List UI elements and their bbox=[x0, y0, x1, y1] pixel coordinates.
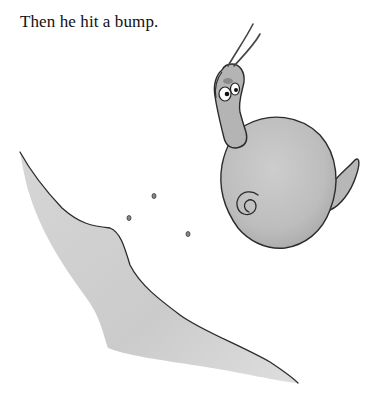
left-pupil bbox=[225, 92, 230, 97]
speck bbox=[152, 194, 156, 199]
antennae bbox=[228, 24, 260, 66]
right-pupil bbox=[234, 88, 238, 92]
head-spot bbox=[223, 78, 233, 84]
speck bbox=[186, 232, 190, 237]
snail bbox=[214, 24, 359, 248]
dirt-specks bbox=[127, 194, 190, 237]
illustration bbox=[0, 0, 382, 405]
speck bbox=[127, 216, 131, 221]
